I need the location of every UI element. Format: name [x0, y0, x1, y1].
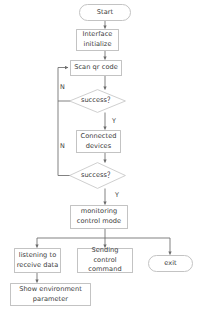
node-start[interactable]: Start	[79, 4, 131, 21]
node-monitoring-control-mode[interactable]: monitoring control mode	[70, 205, 128, 229]
node-success-1-label: success？	[69, 89, 126, 113]
node-interface-initialize[interactable]: Interface initialize	[76, 29, 119, 51]
node-show-environment-parameter[interactable]: Show environment parameter	[10, 283, 91, 306]
node-success-2-label: success？	[69, 162, 126, 189]
flowchart-canvas: Start Interface initialize Scan qr code …	[0, 0, 206, 325]
node-scan-qr-code[interactable]: Scan qr code	[70, 60, 122, 76]
node-sending-control-command[interactable]: Sending control command	[77, 248, 133, 273]
node-connected-devices[interactable]: Connected devices	[76, 130, 121, 153]
edge-label-no-2: N	[60, 143, 65, 149]
edge-label-no-1: N	[60, 84, 65, 90]
node-listening-receive-data[interactable]: listening to receive data	[14, 248, 61, 273]
edge-label-yes-2: Y	[115, 192, 119, 198]
edge-label-yes-1: Y	[112, 118, 116, 124]
node-exit[interactable]: exit	[148, 255, 193, 272]
